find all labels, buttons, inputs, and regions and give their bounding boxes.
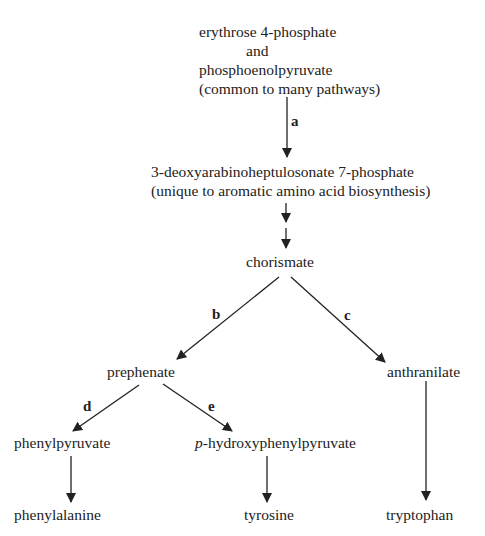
node-phenylalanine: phenylalanine xyxy=(14,505,101,524)
node-start-line-2: and xyxy=(199,41,380,60)
node-dahp-line-2: (unique to aromatic amino acid biosynthe… xyxy=(151,181,430,200)
node-phenylpyruvate: phenylpyruvate xyxy=(14,433,110,452)
node-dahp-line-1: 3-deoxyarabinoheptulosonate 7-phosphate xyxy=(151,162,430,181)
step-label-b: b xyxy=(212,307,220,322)
node-dahp: 3-deoxyarabinoheptulosonate 7-phosphate … xyxy=(151,162,430,200)
node-start: erythrose 4-phosphate and phosphoenolpyr… xyxy=(199,22,380,98)
node-hydroxyphenylpyruvate-label: -hydroxyphenylpyruvate xyxy=(203,434,356,451)
node-start-line-4: (common to many pathways) xyxy=(199,79,380,98)
step-label-a: a xyxy=(291,114,299,129)
para-prefix: p xyxy=(195,434,203,451)
node-start-line-1: erythrose 4-phosphate xyxy=(199,22,380,41)
step-label-d: d xyxy=(83,399,91,414)
arrow-e xyxy=(163,384,232,431)
pathway-diagram: erythrose 4-phosphate and phosphoenolpyr… xyxy=(0,0,485,536)
node-chorismate: chorismate xyxy=(246,252,314,271)
arrow-c xyxy=(291,277,385,362)
node-anthranilate: anthranilate xyxy=(387,362,460,381)
node-start-line-3: phosphoenolpyruvate xyxy=(199,60,380,79)
arrow-b xyxy=(177,277,279,359)
step-label-c: c xyxy=(344,308,351,323)
node-hydroxyphenylpyruvate: p-hydroxyphenylpyruvate xyxy=(195,433,356,452)
step-label-e: e xyxy=(208,399,215,414)
node-prephenate: prephenate xyxy=(107,362,175,381)
node-tryptophan: tryptophan xyxy=(386,505,453,524)
node-tyrosine: tyrosine xyxy=(244,505,294,524)
